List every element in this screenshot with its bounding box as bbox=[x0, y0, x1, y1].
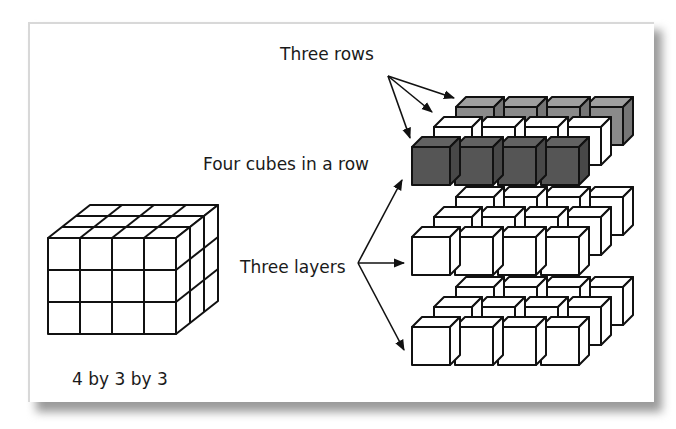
three-layers-label: Three layers bbox=[239, 257, 346, 277]
unit-cube bbox=[412, 227, 460, 275]
unit-cube bbox=[541, 137, 589, 185]
three-layers-arrows bbox=[358, 180, 404, 350]
unit-cube bbox=[498, 227, 546, 275]
unit-cube bbox=[455, 137, 503, 185]
dimensions-label: 4 by 3 by 3 bbox=[72, 369, 168, 389]
unit-cube bbox=[412, 137, 460, 185]
unit-cube bbox=[541, 317, 589, 365]
unit-cube bbox=[498, 137, 546, 185]
unit-cube bbox=[498, 317, 546, 365]
layer-1 bbox=[412, 97, 633, 185]
four-cubes-label: Four cubes in a row bbox=[203, 154, 369, 174]
unit-cube bbox=[541, 227, 589, 275]
layer-3 bbox=[412, 277, 633, 365]
layer-2 bbox=[412, 187, 633, 275]
unit-cube bbox=[455, 227, 503, 275]
rectangular-prism-4x3x3 bbox=[48, 205, 218, 334]
exploded-layers bbox=[412, 97, 633, 365]
unit-cube bbox=[455, 317, 503, 365]
diagram-canvas: Three rows Four cubes in a row Three lay… bbox=[0, 0, 676, 429]
three-rows-label: Three rows bbox=[279, 44, 374, 64]
unit-cube bbox=[412, 317, 460, 365]
